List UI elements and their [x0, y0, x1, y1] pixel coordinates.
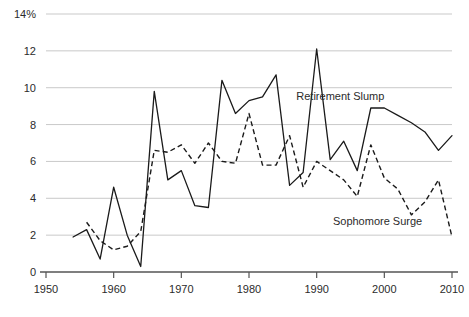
y-tick-label-10: 10	[24, 82, 36, 94]
annotation-retirement-slump: Retirement Slump	[296, 90, 384, 102]
gridlines-group	[46, 14, 452, 235]
y-tick-label-4: 4	[30, 192, 36, 204]
y-axis-tick-labels: 02468101214%	[14, 8, 36, 278]
x-axis	[40, 272, 458, 278]
y-tick-label-8: 8	[30, 119, 36, 131]
y-tick-label-2: 2	[30, 229, 36, 241]
chart-container: 02468101214% 195019601970198019902000201…	[0, 0, 469, 317]
y-tick-label-14: 14%	[14, 8, 36, 20]
y-tick-label-12: 12	[24, 45, 36, 57]
x-tick-label-1970: 1970	[169, 283, 193, 295]
line-chart: 02468101214% 195019601970198019902000201…	[0, 0, 469, 317]
x-tick-label-1990: 1990	[304, 283, 328, 295]
x-tick-label-2010: 2010	[440, 283, 464, 295]
x-axis-tick-labels: 1950196019701980199020002010	[34, 283, 464, 295]
x-tick-label-1980: 1980	[237, 283, 261, 295]
x-tick-label-1950: 1950	[34, 283, 58, 295]
y-tick-label-6: 6	[30, 155, 36, 167]
y-tick-label-0: 0	[30, 266, 36, 278]
series-line-sophomore-surge	[87, 114, 452, 250]
data-series-group	[73, 49, 452, 266]
x-tick-label-1960: 1960	[101, 283, 125, 295]
x-tick-label-2000: 2000	[372, 283, 396, 295]
series-line-retirement-slump	[73, 49, 452, 266]
annotation-sophomore-surge: Sophomore Surge	[333, 215, 422, 227]
